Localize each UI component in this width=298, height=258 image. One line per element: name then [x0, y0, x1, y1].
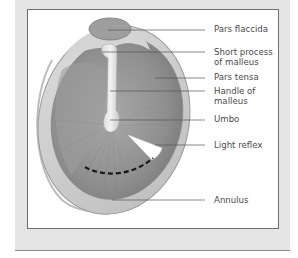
label-line: Pars tensa: [214, 72, 259, 82]
label-annulus: Annulus: [214, 195, 249, 205]
label-light-reflex: Light reflex: [214, 140, 262, 150]
label-line: Umbo: [214, 114, 239, 124]
label-line: Handle of: [214, 86, 255, 96]
label-line: of malleus: [214, 57, 273, 67]
pars-flaccida-shape: [89, 18, 131, 40]
label-line: Short process: [214, 47, 273, 57]
tympanic-membrane-illustration: [0, 0, 298, 258]
label-line: Pars flaccida: [214, 24, 268, 34]
label-line: Light reflex: [214, 140, 262, 150]
label-line: Annulus: [214, 195, 249, 205]
label-short-process: Short process of malleus: [214, 47, 273, 67]
label-pars-tensa: Pars tensa: [214, 72, 259, 82]
label-pars-flaccida: Pars flaccida: [214, 24, 268, 34]
label-umbo: Umbo: [214, 114, 239, 124]
label-handle-of-malleus: Handle of malleus: [214, 86, 255, 106]
label-line: malleus: [214, 96, 255, 106]
